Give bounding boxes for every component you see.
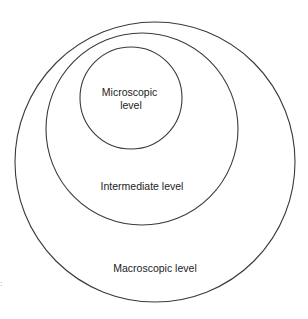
cropped-edge-mark: : <box>0 281 2 286</box>
macroscopic-level-label: Macroscopic level <box>113 262 196 274</box>
microscopic-label-line-2: level <box>120 99 142 111</box>
intermediate-level-circle <box>46 33 238 225</box>
macroscopic-level-circle <box>15 22 295 302</box>
microscopic-level-label: Microscopic level <box>102 86 160 111</box>
nested-levels-diagram: Microscopic level Intermediate level Mac… <box>0 0 308 319</box>
microscopic-label-line-1: Microscopic <box>102 86 157 98</box>
intermediate-level-label: Intermediate level <box>101 180 184 192</box>
